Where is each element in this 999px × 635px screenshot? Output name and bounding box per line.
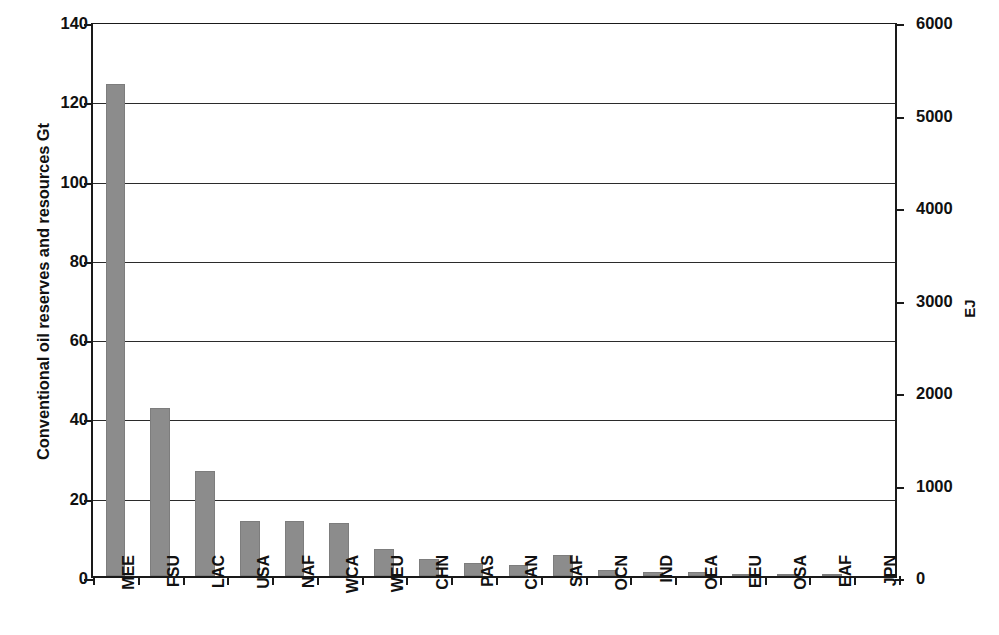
y-tick-label-right: 3000 (916, 293, 953, 310)
x-tick-label: PAS (480, 555, 496, 635)
plot-area (91, 23, 897, 578)
y-tick-mark-right (895, 487, 904, 489)
y-axis-tick-labels-right: 0100020003000400050006000 (916, 0, 976, 635)
y-tick-mark-left (84, 420, 93, 422)
y-tick-mark-right (895, 394, 904, 396)
y-tick-label-right: 4000 (916, 200, 953, 217)
y-axis-tick-labels-left: 020406080100120140 (28, 0, 88, 635)
y-tick-mark-left (84, 103, 93, 105)
x-tick-label: LAC (211, 555, 227, 635)
y-tick-label-right: 6000 (916, 15, 953, 32)
y-tick-mark-right (895, 302, 904, 304)
y-tick-mark-left (84, 579, 93, 581)
x-tick-label: MEE (121, 555, 137, 635)
x-tick-mark (899, 576, 901, 585)
y-tick-label-right: 2000 (916, 385, 953, 402)
x-tick-label: FSU (166, 555, 182, 635)
bar (150, 408, 170, 576)
x-tick-label: CHN (435, 555, 451, 635)
y-tick-mark-left (84, 500, 93, 502)
x-tick-label: OEA (704, 555, 720, 635)
y-tick-mark-right (895, 209, 904, 211)
x-tick-label: JPN (883, 555, 899, 635)
bar-series (93, 24, 895, 576)
x-tick-label: USA (256, 555, 272, 635)
x-tick-label: OCN (614, 555, 630, 635)
x-tick-label: EEU (748, 555, 764, 635)
x-tick-label: SAF (569, 555, 585, 635)
y-tick-mark-left (84, 24, 93, 26)
y-tick-mark-left (84, 262, 93, 264)
y-tick-mark-left (84, 341, 93, 343)
x-tick-label: CAN (524, 555, 540, 635)
y-tick-mark-right (895, 117, 904, 119)
x-tick-label: EAF (838, 555, 854, 635)
bar (106, 84, 126, 576)
y-tick-label-right: 0 (916, 570, 925, 587)
x-axis-tick-labels: MEEFSULACUSANAFWCAWEUCHNPASCANSAFOCNINDO… (91, 583, 897, 635)
x-tick-label: WCA (345, 555, 361, 635)
x-tick-label: WEU (390, 555, 406, 635)
y-tick-label-right: 1000 (916, 478, 953, 495)
bar-chart: Conventional oil reserves and resources … (0, 0, 999, 635)
x-tick-label: IND (659, 555, 675, 635)
x-tick-label: NAF (301, 555, 317, 635)
y-tick-mark-left (84, 183, 93, 185)
y-tick-mark-right (895, 24, 904, 26)
y-tick-label-right: 5000 (916, 108, 953, 125)
x-tick-label: OSA (793, 555, 809, 635)
